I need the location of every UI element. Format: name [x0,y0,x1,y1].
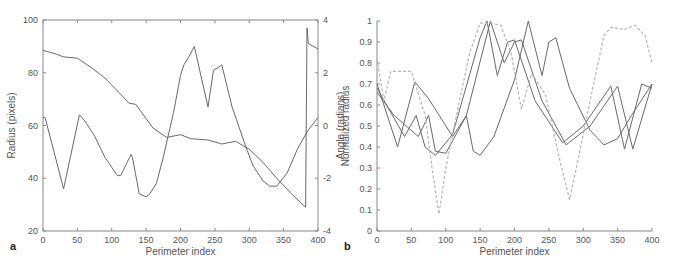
y-tick-label: 60 [28,121,38,131]
y-tick-label: 80 [28,68,38,78]
y2-tick-label: 0 [323,121,328,131]
y2-tick-label: -4 [323,226,331,236]
x-tick-label: 300 [242,235,257,245]
x-tick-label: 50 [406,235,416,245]
y2-tick-label: 4 [323,15,328,25]
y-axis-title: Radius (pixels) [6,92,17,158]
y-tick-label: 1 [367,16,372,26]
x-tick-label: 400 [644,235,659,245]
y2-tick-label: 2 [323,68,328,78]
x-tick-label: 50 [72,235,82,245]
figure: 05010015020025030035040020406080100-4-20… [0,0,678,268]
panel-label: a [10,240,17,252]
y-tick-label: 0 [367,226,372,236]
y-tick-label: 40 [28,173,38,183]
x-tick-label: 250 [207,235,222,245]
x-tick-label: 0 [374,235,379,245]
x-tick-label: 0 [40,235,45,245]
y-tick-label: 100 [23,15,38,25]
panel-b-chart: 05010015020025030035040000.10.20.30.40.5… [340,16,660,257]
series-line-angle [43,28,318,207]
panel-a-chart: 05010015020025030035040020406080100-4-20… [6,15,346,257]
y2-tick-label: -2 [323,173,331,183]
x-tick-label: 200 [173,235,188,245]
series-line-radius [43,46,318,196]
y-tick-label: 0.2 [359,184,372,194]
x-tick-label: 150 [473,235,488,245]
y-tick-label: 0.5 [359,121,372,131]
y-tick-label: 0.7 [359,79,372,89]
x-tick-label: 200 [507,235,522,245]
panel-label: b [344,240,351,252]
y-tick-label: 20 [28,226,38,236]
y-tick-label: 0.8 [359,58,372,68]
y-tick-label: 0.4 [359,142,372,152]
x-axis-title: Perimeter index [479,246,549,257]
y-tick-label: 0.9 [359,37,372,47]
series-line-curve-4 [377,23,652,214]
x-axis-title: Perimeter index [145,246,215,257]
x-tick-label: 400 [310,235,325,245]
x-tick-label: 350 [276,235,291,245]
x-tick-label: 100 [104,235,119,245]
x-tick-label: 150 [139,235,154,245]
x-tick-label: 250 [541,235,556,245]
series-line-curve-2 [377,21,652,155]
y-tick-label: 0.1 [359,205,372,215]
y-tick-label: 0.3 [359,163,372,173]
y-tick-label: 0.6 [359,100,372,110]
y-axis-title: Normalized radius [340,86,351,167]
x-tick-label: 300 [576,235,591,245]
x-tick-label: 100 [438,235,453,245]
x-tick-label: 350 [610,235,625,245]
